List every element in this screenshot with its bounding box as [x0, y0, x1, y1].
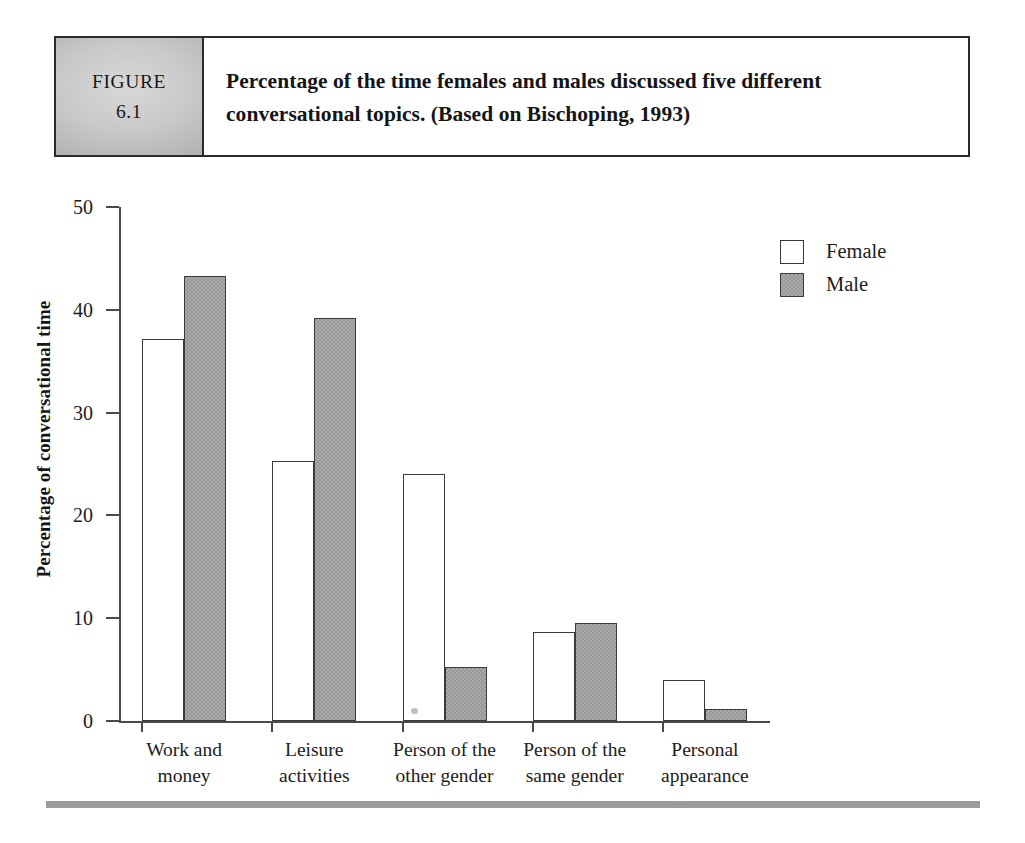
x-axis-category-label: Person of thesame gender	[504, 737, 646, 789]
x-axis-category-label: Person of theother gender	[373, 737, 515, 789]
bar-female-4	[663, 680, 705, 721]
bar-male-4	[705, 709, 747, 721]
y-axis-tick-label: 30	[47, 401, 93, 424]
figure-badge-word: FIGURE	[92, 67, 166, 96]
scan-artifact-speck	[411, 708, 418, 714]
figure-number-badge: FIGURE 6.1	[56, 38, 204, 155]
y-axis-tick	[106, 412, 119, 414]
bar-female-1	[272, 461, 314, 721]
x-axis-line	[119, 721, 770, 723]
category-label-line: Personal	[634, 737, 776, 763]
bar-female-3	[533, 632, 575, 721]
y-axis-tick-label: 50	[47, 196, 93, 219]
figure-badge-number: 6.1	[116, 97, 142, 126]
x-axis-tick	[271, 721, 273, 732]
category-label-line: Person of the	[504, 737, 646, 763]
legend-label-male: Male	[826, 273, 868, 296]
legend-swatch-male-icon	[780, 273, 804, 297]
legend-item-male: Male	[780, 268, 886, 301]
x-axis-tick	[662, 721, 664, 732]
category-label-line: Leisure	[243, 737, 385, 763]
bar-male-1	[314, 318, 356, 721]
y-axis-tick	[106, 309, 119, 311]
x-axis-category-label: Work andmoney	[113, 737, 255, 789]
y-axis-tick	[106, 720, 119, 722]
bottom-rule-divider	[46, 801, 980, 808]
bar-male-2	[445, 667, 487, 721]
bar-female-0	[142, 339, 184, 721]
legend-swatch-female-icon	[780, 240, 804, 264]
bar-female-2	[403, 474, 445, 721]
figure-header-box: FIGURE 6.1 Percentage of the time female…	[54, 36, 970, 157]
plot-area: 01020304050 Work andmoneyLeisureactiviti…	[119, 207, 770, 721]
category-label-line: Work and	[113, 737, 255, 763]
y-axis-tick	[106, 206, 119, 208]
y-axis-title: Percentage of conversational time	[33, 229, 55, 649]
scan-artifact-speck-secondary	[410, 745, 416, 748]
bar-male-3	[575, 623, 617, 721]
y-axis-tick	[106, 514, 119, 516]
bar-chart: Percentage of conversational time 010203…	[0, 170, 1025, 790]
y-axis-tick-label: 0	[47, 710, 93, 733]
y-axis-tick-label: 20	[47, 504, 93, 527]
category-label-line: same gender	[504, 763, 646, 789]
category-label-line: other gender	[373, 763, 515, 789]
figure-caption-text: Percentage of the time females and males…	[226, 65, 950, 130]
legend-item-female: Female	[780, 235, 886, 268]
x-axis-tick	[532, 721, 534, 732]
y-axis-tick-label: 40	[47, 298, 93, 321]
x-axis-tick	[402, 721, 404, 732]
category-label-line: activities	[243, 763, 385, 789]
y-axis-line	[119, 207, 121, 721]
x-axis-tick	[141, 721, 143, 732]
y-axis-tick	[106, 617, 119, 619]
legend-label-female: Female	[826, 240, 886, 263]
category-label-line: money	[113, 763, 255, 789]
chart-legend: Female Male	[780, 235, 886, 301]
bar-male-0	[184, 276, 226, 721]
y-axis-tick-label: 10	[47, 607, 93, 630]
figure-caption: Percentage of the time females and males…	[204, 38, 968, 155]
category-label-line: Person of the	[373, 737, 515, 763]
x-axis-category-label: Personalappearance	[634, 737, 776, 789]
category-label-line: appearance	[634, 763, 776, 789]
x-axis-category-label: Leisureactivities	[243, 737, 385, 789]
